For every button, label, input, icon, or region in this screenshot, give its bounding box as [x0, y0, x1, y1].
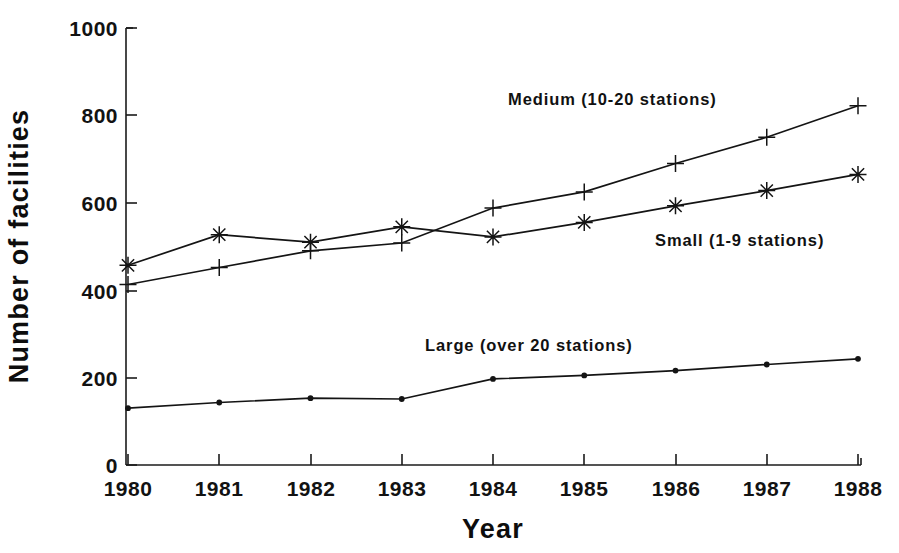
data-point-marker-star — [576, 214, 593, 231]
data-point-marker-plus — [211, 259, 228, 276]
x-axis-title: Year — [462, 514, 524, 544]
data-point-marker-star — [393, 218, 410, 235]
x-tick-label-1984: 1984 — [469, 477, 518, 500]
series-large-facilities — [125, 356, 861, 411]
line-chart-canvas: 1000 800 600 400 200 0 1980 1981 1982 19… — [0, 0, 899, 553]
series-small-facilities — [120, 166, 867, 274]
y-tick-label-200: 200 — [81, 367, 118, 390]
data-point-marker-dot — [125, 405, 131, 411]
chart-figure: 1000 800 600 400 200 0 1980 1981 1982 19… — [0, 0, 899, 553]
y-axis-title: Number of facilities — [4, 109, 34, 384]
data-point-marker-dot — [764, 362, 770, 368]
data-point-marker-dot — [216, 400, 222, 406]
x-tick-label-1986: 1986 — [652, 477, 701, 500]
data-point-marker-star — [485, 228, 502, 245]
x-tick-label-1985: 1985 — [560, 477, 609, 500]
y-tick-label-0: 0 — [106, 454, 118, 477]
data-point-marker-star — [120, 257, 137, 274]
data-point-marker-dot — [490, 376, 496, 382]
data-point-marker-star — [211, 226, 228, 243]
series-label-medium: Medium (10-20 stations) — [508, 90, 717, 108]
data-point-marker-plus — [758, 129, 775, 146]
data-point-marker-dot — [399, 396, 405, 402]
data-point-marker-dot — [673, 368, 679, 374]
x-tick-marks — [128, 454, 858, 465]
y-tick-label-400: 400 — [81, 280, 118, 303]
x-tick-label-1982: 1982 — [287, 477, 336, 500]
data-point-marker-star — [850, 166, 867, 183]
data-point-marker-plus — [576, 183, 593, 200]
series-label-small: Small (1-9 stations) — [655, 231, 824, 249]
x-tick-labels: 1980 1981 1982 1983 1984 1985 1986 1987 … — [104, 477, 883, 500]
x-tick-label-1981: 1981 — [195, 477, 244, 500]
data-point-marker-plus — [667, 155, 684, 172]
data-point-marker-plus — [302, 242, 319, 259]
y-tick-marks — [126, 28, 137, 465]
data-point-marker-plus — [393, 235, 410, 252]
y-tick-label-1000: 1000 — [69, 17, 118, 40]
x-tick-label-1988: 1988 — [834, 477, 883, 500]
x-tick-label-1987: 1987 — [743, 477, 792, 500]
series-path — [128, 359, 858, 408]
series-label-large: Large (over 20 stations) — [425, 336, 633, 354]
x-tick-label-1983: 1983 — [378, 477, 427, 500]
x-tick-label-1980: 1980 — [104, 477, 153, 500]
y-tick-label-800: 800 — [81, 104, 118, 127]
data-point-marker-star — [758, 182, 775, 199]
data-point-marker-plus — [850, 97, 867, 114]
data-point-marker-dot — [855, 356, 861, 362]
y-tick-label-600: 600 — [81, 192, 118, 215]
y-tick-labels: 1000 800 600 400 200 0 — [69, 17, 118, 477]
series-path — [128, 174, 858, 265]
data-point-marker-star — [667, 197, 684, 214]
data-point-marker-plus — [485, 200, 502, 217]
data-point-marker-dot — [581, 373, 587, 379]
series-path — [128, 106, 858, 285]
series-medium-facilities — [120, 97, 867, 293]
data-point-marker-dot — [308, 395, 314, 401]
